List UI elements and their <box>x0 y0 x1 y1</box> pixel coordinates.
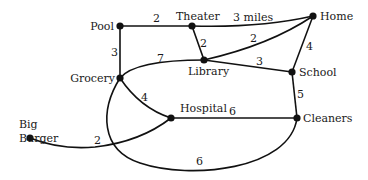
node-hospital <box>167 114 174 121</box>
weight-hospital-cleaners: 6 <box>229 105 236 118</box>
label-grocery: Grocery <box>70 72 116 85</box>
label-school: School <box>299 66 337 79</box>
node-pool <box>116 22 123 29</box>
node-grocery <box>116 74 123 81</box>
node-home <box>309 12 316 19</box>
label-cleaners: Cleaners <box>303 112 353 125</box>
node-school <box>288 68 295 75</box>
weight-grocery-hospital: 4 <box>141 91 148 104</box>
label-big: Big <box>19 118 38 131</box>
weight-theater-home: 3 miles <box>233 11 273 24</box>
weight-library-school: 3 <box>256 55 263 68</box>
weight-grocery-library: 7 <box>157 52 164 65</box>
node-library <box>200 56 207 63</box>
weight-burger-hospital: 2 <box>94 134 101 147</box>
weight-pool-theater: 2 <box>153 12 160 25</box>
node-theater <box>188 22 195 29</box>
weight-library-home: 2 <box>250 32 257 45</box>
weight-pool-grocery: 3 <box>111 46 118 59</box>
label-home: Home <box>320 10 353 23</box>
label-pool: Pool <box>90 20 114 33</box>
weight-theater-library: 2 <box>200 37 207 50</box>
graph-diagram: Pool Theater Home Library Grocery School… <box>0 0 368 180</box>
label-hospital: Hospital <box>180 102 227 115</box>
node-cleaners <box>293 114 300 121</box>
weight-home-school: 4 <box>306 40 313 53</box>
weight-school-cleaners: 5 <box>297 88 304 101</box>
label-library: Library <box>188 65 230 78</box>
label-theater: Theater <box>176 10 220 23</box>
label-burger: Burger <box>19 132 59 145</box>
weight-grocery-cleaners: 6 <box>196 155 203 168</box>
